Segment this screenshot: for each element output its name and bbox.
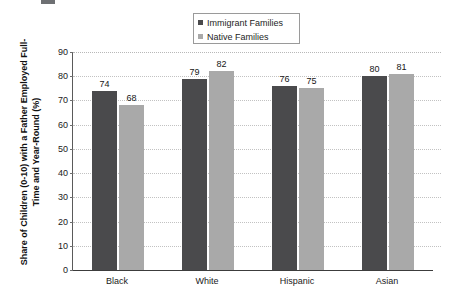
y-tick-label: 60 bbox=[58, 120, 68, 130]
y-tick-label: 0 bbox=[63, 265, 68, 275]
y-tick-mark bbox=[70, 100, 73, 101]
bar-value-label: 79 bbox=[189, 67, 199, 77]
bar-black-native: 68 bbox=[119, 105, 144, 270]
cropped-header-artifact bbox=[41, 0, 55, 4]
bar-asian-native: 81 bbox=[389, 74, 414, 270]
legend-item-immigrant-families: Immigrant Families bbox=[198, 16, 299, 29]
y-tick-label: 40 bbox=[58, 168, 68, 178]
y-tick-mark bbox=[70, 76, 73, 77]
bar-white-native: 82 bbox=[209, 71, 234, 270]
y-tick-mark bbox=[70, 197, 73, 198]
y-tick-mark bbox=[70, 246, 73, 247]
bar-value-label: 75 bbox=[306, 76, 316, 86]
y-tick-label: 30 bbox=[58, 192, 68, 202]
x-axis-label-asian: Asian bbox=[376, 276, 399, 286]
legend-label-native-families: Native Families bbox=[207, 32, 269, 42]
bar-value-label: 81 bbox=[396, 62, 406, 72]
bar-value-label: 76 bbox=[279, 74, 289, 84]
x-axis-label-hispanic: Hispanic bbox=[280, 276, 315, 286]
square-marker-light-icon bbox=[198, 34, 203, 39]
bar-value-label: 80 bbox=[369, 64, 379, 74]
legend-label-immigrant-families: Immigrant Families bbox=[207, 18, 283, 28]
y-tick-mark bbox=[70, 125, 73, 126]
x-axis-label-black: Black bbox=[106, 276, 128, 286]
y-tick-label: 80 bbox=[58, 71, 68, 81]
bar-white-immigrant: 79 bbox=[182, 79, 207, 270]
bar-hispanic-native: 75 bbox=[299, 88, 324, 270]
y-axis-title: Share of Children (0-10) with a Father E… bbox=[18, 37, 42, 267]
y-tick-label: 90 bbox=[58, 47, 68, 57]
bar-value-label: 82 bbox=[216, 59, 226, 69]
bar-chart-figure: Immigrant Families Native Families Share… bbox=[0, 0, 451, 306]
y-tick-mark bbox=[70, 222, 73, 223]
bar-value-label: 68 bbox=[126, 93, 136, 103]
bar-asian-immigrant: 80 bbox=[362, 76, 387, 270]
legend-item-native-families: Native Families bbox=[198, 30, 299, 43]
y-tick-label: 10 bbox=[58, 241, 68, 251]
gridline bbox=[73, 52, 441, 53]
bar-value-label: 74 bbox=[99, 79, 109, 89]
square-marker-dark-icon bbox=[198, 20, 203, 25]
bar-black-immigrant: 74 bbox=[92, 91, 117, 270]
bar-hispanic-immigrant: 76 bbox=[272, 86, 297, 270]
chart-legend: Immigrant Families Native Families bbox=[193, 13, 300, 44]
plot-area: 90807060504030201007468798276758081 bbox=[72, 52, 433, 271]
y-tick-mark bbox=[70, 52, 73, 53]
y-tick-label: 50 bbox=[58, 144, 68, 154]
y-tick-mark bbox=[70, 149, 73, 150]
y-tick-label: 70 bbox=[58, 95, 68, 105]
y-tick-mark bbox=[70, 270, 73, 271]
y-tick-label: 20 bbox=[58, 217, 68, 227]
y-tick-mark bbox=[70, 173, 73, 174]
x-axis-label-white: White bbox=[195, 276, 218, 286]
